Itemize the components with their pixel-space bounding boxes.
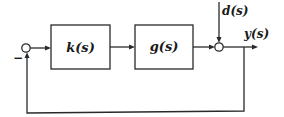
plant-label: g(s) [150, 39, 179, 54]
wire-sum-to-controller [30, 46, 51, 51]
wire-controller-to-plant [110, 45, 135, 50]
disturbance-summing-junction [215, 43, 223, 51]
output-label: y(s) [243, 27, 269, 41]
disturbance-label: d(s) [222, 4, 249, 18]
feedback-block-diagram: − k(s) g(s) [0, 0, 284, 117]
disturbance-input-arrow [217, 2, 222, 43]
negative-sign-label: − [13, 51, 23, 65]
controller-label: k(s) [66, 40, 95, 55]
output-arrow [223, 45, 258, 50]
wire-plant-to-sum [193, 45, 215, 50]
